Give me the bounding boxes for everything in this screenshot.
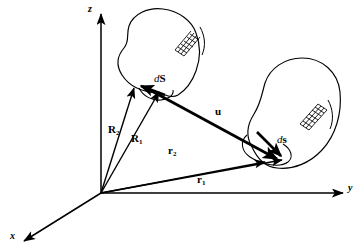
z-axis-label: z xyxy=(88,4,92,14)
position-vector-group xyxy=(101,88,282,193)
diagram-svg xyxy=(0,0,362,252)
vector-r2-label: r2 xyxy=(168,145,176,156)
right-hatch-edge xyxy=(328,100,332,129)
vector-r1-label: r1 xyxy=(197,174,205,185)
vector-r1-label-sub: 1 xyxy=(202,179,206,187)
vector-r1 xyxy=(101,160,282,193)
vector-ds-label-s: s xyxy=(283,133,287,145)
axis-group xyxy=(24,14,343,241)
vector-R1-label: R1 xyxy=(131,133,142,144)
vector-R2-label: R2 xyxy=(108,124,119,135)
vector-dS-label-S: S xyxy=(160,72,166,84)
vector-R1-label-sub: 1 xyxy=(139,138,143,146)
x-axis-label: x xyxy=(10,231,15,241)
vector-R1 xyxy=(101,92,159,193)
vector-R1-label-base: R xyxy=(131,132,139,144)
x-axis-line xyxy=(24,193,101,241)
right-hatch-patch xyxy=(300,104,327,130)
vector-R2-label-base: R xyxy=(108,123,116,135)
figure-canvas: z y x R2 R1 r2 r1 u dS ds xyxy=(0,0,362,252)
vector-r2-label-sub: 2 xyxy=(173,150,177,158)
vector-u-label: u xyxy=(215,106,221,117)
upper-left-hatch-edge xyxy=(200,27,204,55)
vector-R2-label-sub: 2 xyxy=(116,129,120,137)
vector-R2 xyxy=(101,88,134,193)
vector-ds-label: ds xyxy=(277,134,287,145)
vector-dS-label: dS xyxy=(154,73,166,84)
y-axis-label: y xyxy=(348,183,352,193)
